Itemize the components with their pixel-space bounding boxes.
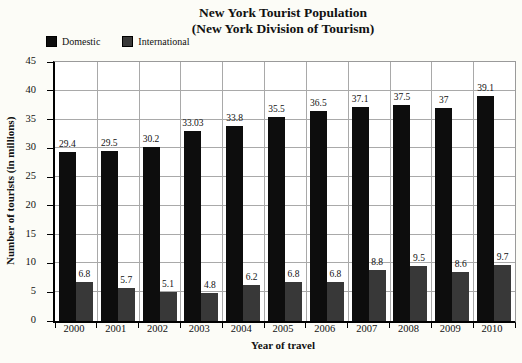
y-tick-label-10: 10 (26, 257, 37, 267)
x-tick-label-2003: 2003 (178, 323, 220, 334)
y-tick-label-45: 45 (26, 56, 37, 66)
chart-title-line2: (New York Division of Tourism) (53, 21, 513, 37)
legend-label-international: International (138, 36, 189, 47)
bar-label-domestic-2001: 29.5 (101, 138, 118, 148)
y-tickmark-25 (47, 177, 53, 178)
bar-label-international-2004: 6.2 (246, 272, 258, 282)
y-tick-label-35: 35 (26, 114, 37, 124)
legend-item-international: International (122, 36, 189, 47)
bar-domestic-2004: 33.8 (226, 126, 243, 321)
x-tick-label-2006: 2006 (304, 323, 346, 334)
bar-label-international-2001: 5.7 (120, 275, 132, 285)
bar-group-2003: 33.034.8 (180, 62, 222, 321)
bar-domestic-2006: 36.5 (310, 111, 327, 321)
y-tick-label-15: 15 (26, 229, 37, 239)
bar-group-2005: 35.56.8 (264, 62, 306, 321)
bar-international-2002: 5.1 (160, 292, 177, 321)
y-tick-label-5: 5 (31, 286, 36, 296)
bar-international-2000: 6.8 (76, 282, 93, 321)
bar-label-international-2007: 8.8 (371, 257, 383, 267)
y-axis-labels: 051015202530354045 (0, 61, 46, 320)
bar-group-2008: 37.59.5 (390, 62, 432, 321)
bar-international-2007: 8.8 (369, 270, 386, 321)
bar-group-2000: 29.46.8 (55, 62, 97, 321)
bar-domestic-2005: 35.5 (268, 117, 285, 321)
bar-international-2010: 9.7 (494, 265, 511, 321)
international-swatch-icon (122, 36, 133, 47)
y-tick-label-40: 40 (26, 85, 37, 95)
y-tick-label-20: 20 (26, 200, 37, 210)
y-tick-label-25: 25 (26, 171, 37, 181)
y-tickmark-40 (47, 90, 53, 91)
bar-label-domestic-2000: 29.4 (59, 139, 76, 149)
y-tick-label-30: 30 (26, 142, 37, 152)
bar-label-international-2000: 6.8 (78, 269, 90, 279)
chart-title-line1: New York Tourist Population (53, 5, 513, 21)
bar-label-international-2008: 9.5 (413, 253, 425, 263)
bar-group-2006: 36.56.8 (306, 62, 348, 321)
bar-label-international-2005: 6.8 (288, 269, 300, 279)
x-tick-label-2009: 2009 (429, 323, 471, 334)
x-tick-label-2001: 2001 (95, 323, 137, 334)
bar-international-2005: 6.8 (285, 282, 302, 321)
chart-figure: New York Tourist Population (New York Di… (0, 0, 522, 363)
bar-domestic-2001: 29.5 (101, 151, 118, 321)
bar-label-domestic-2007: 37.1 (352, 94, 369, 104)
bar-label-international-2002: 5.1 (162, 279, 174, 289)
x-axis-labels: 2000200120022003200420052006200720082009… (53, 323, 513, 337)
bar-international-2006: 6.8 (327, 282, 344, 321)
bar-group-2009: 378.6 (431, 62, 473, 321)
bar-label-domestic-2005: 35.5 (268, 104, 285, 114)
x-tick-label-2000: 2000 (53, 323, 95, 334)
x-tick-label-2007: 2007 (346, 323, 388, 334)
bar-label-domestic-2009: 37 (439, 95, 449, 105)
bar-label-international-2009: 8.6 (455, 259, 467, 269)
y-tick-label-0: 0 (31, 315, 36, 325)
bar-label-domestic-2010: 39.1 (477, 83, 494, 93)
bar-domestic-2002: 30.2 (143, 147, 160, 321)
bar-group-2004: 33.86.2 (222, 62, 264, 321)
bar-label-international-2003: 4.8 (204, 280, 216, 290)
bar-domestic-2010: 39.1 (477, 96, 494, 321)
bar-international-2001: 5.7 (118, 288, 135, 321)
bar-domestic-2008: 37.5 (393, 105, 410, 321)
bar-label-domestic-2002: 30.2 (143, 134, 160, 144)
bar-label-domestic-2003: 33.03 (182, 118, 203, 128)
bar-group-2007: 37.18.8 (348, 62, 390, 321)
x-tick-label-2004: 2004 (220, 323, 262, 334)
chart-title: New York Tourist Population (New York Di… (53, 5, 513, 37)
x-tick-label-2005: 2005 (262, 323, 304, 334)
y-tickmark-20 (47, 205, 53, 206)
x-axis-title: Year of travel (53, 339, 513, 351)
y-tickmark-35 (47, 119, 53, 120)
legend-label-domestic: Domestic (62, 36, 100, 47)
y-tickmark-30 (47, 148, 53, 149)
bar-international-2004: 6.2 (243, 285, 260, 321)
bar-international-2008: 9.5 (410, 266, 427, 321)
x-tickmark-11 (515, 323, 516, 328)
bar-international-2003: 4.8 (201, 293, 218, 321)
bar-international-2009: 8.6 (452, 272, 469, 321)
x-tick-label-2002: 2002 (137, 323, 179, 334)
y-tickmark-10 (47, 263, 53, 264)
x-tick-label-2010: 2010 (471, 323, 513, 334)
bar-group-2001: 29.55.7 (97, 62, 139, 321)
domestic-swatch-icon (46, 36, 57, 47)
bar-label-international-2006: 6.8 (329, 269, 341, 279)
legend: Domestic International (46, 36, 189, 47)
bar-domestic-2007: 37.1 (352, 107, 369, 321)
y-tickmark-0 (47, 321, 53, 322)
bar-group-2010: 39.19.7 (473, 62, 515, 321)
bar-label-international-2010: 9.7 (497, 252, 509, 262)
bar-domestic-2009: 37 (435, 108, 452, 321)
y-tickmark-45 (47, 62, 53, 63)
y-tickmark-5 (47, 292, 53, 293)
bar-label-domestic-2006: 36.5 (310, 98, 327, 108)
x-tick-label-2008: 2008 (388, 323, 430, 334)
legend-item-domestic: Domestic (46, 36, 100, 47)
y-tickmark-15 (47, 234, 53, 235)
bar-domestic-2003: 33.03 (184, 131, 201, 321)
bar-label-domestic-2008: 37.5 (394, 92, 411, 102)
bar-domestic-2000: 29.4 (59, 152, 76, 321)
plot-area: 29.46.829.55.730.25.133.034.833.86.235.5… (53, 61, 516, 323)
